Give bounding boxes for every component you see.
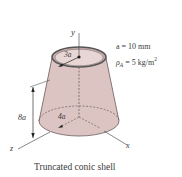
height-label: 8a — [18, 114, 26, 122]
given-areal-density: ρA = 5 kg/m2 — [116, 57, 157, 69]
given-a: a = 10 mm — [116, 43, 151, 51]
bottom-radius-label: 4a — [58, 113, 66, 121]
top-radius-label: 3a — [64, 51, 72, 59]
y-axis-label: y — [71, 28, 75, 37]
rho-exponent: 2 — [154, 56, 157, 62]
conic-shell-figure: y x z 3a 4a 8a a = 10 mm ρA = 5 kg/m2 Tr… — [0, 0, 182, 177]
z-axis-label: z — [10, 145, 13, 153]
x-axis — [104, 131, 127, 145]
height-arrow-top — [31, 87, 34, 92]
x-axis-label: x — [126, 142, 130, 150]
figure-caption: Truncated conic shell — [34, 162, 115, 172]
rho-value: = 5 kg/m — [123, 58, 154, 67]
diagram-drawing — [0, 0, 182, 177]
height-arrow-bottom — [31, 133, 34, 138]
